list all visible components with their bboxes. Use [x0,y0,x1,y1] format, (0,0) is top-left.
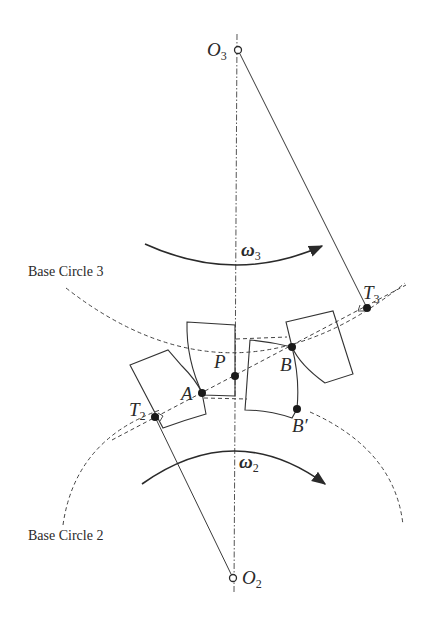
label-b-prime: B′ [292,416,308,435]
label-t3-sub: 3 [374,292,380,306]
gear3-tooth-center [187,322,235,396]
omega2-rotation-arrow [142,451,325,484]
point-t3-marker [363,304,371,312]
label-t3: T3 [363,283,380,305]
point-p-marker [231,372,239,380]
label-base-circle-3: Base Circle 3 [28,265,103,279]
omega2-sub: 2 [253,461,259,475]
label-o2: O2 [242,568,262,590]
gear2-tooth-center [245,340,298,418]
omega3-symbol: ω [241,239,255,260]
label-t3-letter: T [363,282,374,303]
gear3-tooth-right [286,311,353,383]
point-t2-marker [151,413,159,421]
label-t2: T2 [129,400,146,422]
label-b-prime-letter: B [292,415,304,436]
label-base-circle-2: Base Circle 2 [28,529,103,543]
label-b-prime-mark: ′ [304,415,308,436]
label-o3-sub: 3 [221,49,227,63]
construction-line-upper [236,337,287,339]
label-omega3: ω3 [241,240,261,262]
radius-o2-t2 [156,419,231,574]
label-omega2: ω2 [239,452,259,474]
construction-line-lower [204,398,247,399]
label-o3: O3 [207,40,227,62]
label-b: B [280,355,292,374]
omega3-sub: 3 [255,249,261,263]
omega2-symbol: ω [239,451,253,472]
center-line [234,34,237,592]
label-p: P [214,352,226,371]
gear-mesh-diagram: O3 O2 ω3 ω2 Base Circle 3 Base Circle 2 … [0,0,426,622]
label-t2-sub: 2 [140,409,146,423]
point-b-prime-marker [293,405,301,413]
point-a-marker [198,389,206,397]
center-o3-marker [235,47,242,54]
label-o3-letter: O [207,39,221,60]
omega3-rotation-arrow [145,244,322,265]
center-o2-marker [230,575,237,582]
label-o2-sub: 2 [256,577,262,591]
label-a: A [181,384,193,403]
base-circle-2-arc [63,410,403,525]
radius-o3-t3 [240,54,366,306]
point-b-marker [288,343,296,351]
label-o2-letter: O [242,567,256,588]
label-t2-letter: T [129,399,140,420]
